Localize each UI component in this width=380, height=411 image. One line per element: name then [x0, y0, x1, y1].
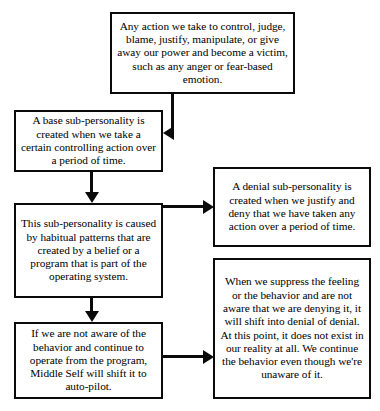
any-action-text: Any action we take to control, judge, bl… — [116, 20, 289, 87]
suppress-denial-of-denial-text: When we suppress the feeling or the beha… — [219, 275, 365, 382]
this-sub-personality-box: This sub-personality is caused by habitu… — [14, 203, 163, 298]
not-aware-auto-pilot-text: If we are not aware of the behavior and … — [20, 327, 157, 394]
denial-sub-personality-box: A denial sub-personality is created when… — [213, 167, 371, 247]
denial-sub-personality-text: A denial sub-personality is created when… — [219, 180, 365, 233]
suppress-denial-of-denial-box: When we suppress the feeling or the beha… — [213, 258, 371, 399]
connector-subpers-to-denial-line — [163, 205, 205, 208]
connector-notaware-to-suppress-arrowhead — [203, 350, 214, 364]
connector-base-to-subpers-line — [90, 172, 93, 194]
this-sub-personality-text: This sub-personality is caused by habitu… — [20, 217, 157, 284]
flowchart-canvas: Any action we take to control, judge, bl… — [0, 0, 380, 411]
connector-notaware-to-suppress-line — [163, 355, 205, 358]
any-action-box: Any action we take to control, judge, bl… — [110, 12, 295, 94]
not-aware-auto-pilot-box: If we are not aware of the behavior and … — [14, 322, 163, 399]
base-sub-personality-box: A base sub-personality is created when w… — [14, 110, 163, 172]
base-sub-personality-text: A base sub-personality is created when w… — [20, 114, 157, 167]
connector-subpers-to-notaware-arrowhead — [85, 311, 99, 322]
connector-subpers-to-denial-arrowhead — [203, 200, 214, 214]
connector-action-to-base-arrowhead — [163, 126, 174, 140]
connector-base-to-subpers-arrowhead — [85, 192, 99, 203]
